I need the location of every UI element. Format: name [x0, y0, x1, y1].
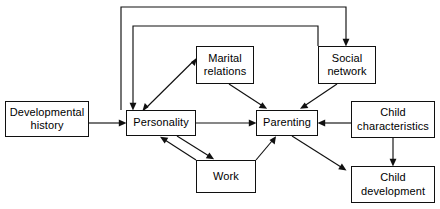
node-child-development[interactable]: Child development — [351, 166, 435, 203]
node-child-characteristics[interactable]: Child characteristics — [351, 101, 435, 138]
node-marital-relations-label: Marital relations — [201, 52, 249, 79]
node-parenting[interactable]: Parenting — [256, 110, 318, 136]
node-social-network[interactable]: Social network — [318, 46, 376, 84]
edge-work-to-parenting — [256, 136, 276, 160]
node-developmental-history-label: Developmental history — [7, 106, 88, 133]
node-personality-label: Personality — [130, 116, 192, 129]
node-work-label: Work — [210, 170, 242, 183]
node-personality[interactable]: Personality — [126, 110, 196, 136]
edge-child-characteristics-to-parenting — [318, 120, 352, 127]
edge-child-characteristics-to-child-development — [390, 138, 397, 167]
edge-marital-relations-to-parenting — [229, 84, 267, 109]
node-work[interactable]: Work — [196, 160, 256, 193]
edge-parenting-to-child-development — [292, 136, 347, 171]
edge-social-network-to-parenting — [300, 84, 337, 109]
edge-personality-to-marital-relations — [142, 57, 197, 112]
process-model-diagram: Developmental history Personality Marita… — [0, 0, 440, 209]
node-parenting-label: Parenting — [260, 116, 314, 129]
node-marital-relations[interactable]: Marital relations — [196, 46, 254, 84]
node-child-characteristics-label: Child characteristics — [354, 106, 432, 133]
node-child-development-label: Child development — [358, 171, 428, 198]
edge-work-to-personality — [160, 137, 196, 160]
edge-personality-to-parenting — [196, 120, 257, 127]
edge-personality-to-work — [177, 136, 214, 159]
node-developmental-history[interactable]: Developmental history — [5, 101, 89, 137]
edge-dev-history-to-personality — [89, 120, 127, 127]
node-social-network-label: Social network — [324, 52, 369, 79]
